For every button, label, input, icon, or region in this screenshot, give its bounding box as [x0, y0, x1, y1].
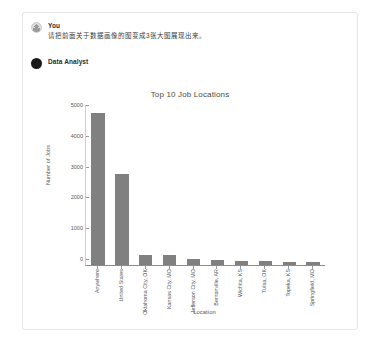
x-axis-tick-label: Jefferson City, MO	[190, 269, 196, 313]
bar-slot	[86, 105, 110, 265]
y-axis-tick-label: 3000	[71, 164, 86, 170]
x-axis-tick-label: Oklahoma City, OK	[142, 269, 148, 315]
x-axis-tick-label: United States	[118, 269, 124, 301]
x-axis-tick-label: Tulsa, OK	[261, 269, 267, 293]
message-author-name: Data Analyst	[48, 57, 357, 66]
chart-title: Top 10 Job Locations	[31, 90, 349, 99]
x-tick-slot: Jefferson City, MO	[181, 266, 205, 326]
x-axis-tick-label: Springfield, MO	[309, 269, 315, 306]
bar	[91, 113, 104, 265]
message-author-name: You	[48, 21, 357, 30]
bar-slot	[253, 105, 277, 265]
x-axis-tick-label: Anywhere	[94, 269, 100, 293]
y-axis-tick-label: 2000	[71, 194, 86, 200]
screenshot-root: You 请把前面关于数据画像的图变成3张大图展现出来。 Data Analyst…	[0, 0, 381, 348]
message-assistant: Data Analyst	[23, 57, 357, 69]
y-axis-tick-label: 4000	[71, 133, 86, 139]
x-tick-slot: United States	[109, 266, 133, 326]
bar-series	[86, 105, 325, 265]
y-axis-label: Number of Jobs	[45, 145, 51, 185]
bar	[211, 260, 224, 265]
bar	[163, 255, 176, 265]
bar-slot	[134, 105, 158, 265]
x-tick-slot: Topeka, KS	[276, 266, 300, 326]
user-avatar-icon	[31, 22, 42, 33]
bar-chart: Top 10 Job Locations Number of Jobs 0100…	[31, 85, 349, 323]
x-axis-tick-label: Bentonville, AR	[213, 269, 219, 306]
bar	[139, 255, 152, 265]
x-axis-ticks: AnywhereUnited StatesOklahoma City, OKKa…	[85, 266, 324, 326]
bar-slot	[277, 105, 301, 265]
bar-slot	[229, 105, 253, 265]
bar-slot	[110, 105, 134, 265]
y-axis-tick-label: 5000	[71, 102, 86, 108]
bar	[235, 261, 248, 265]
bar	[115, 174, 128, 265]
x-tick-slot: Anywhere	[85, 266, 109, 326]
bar	[306, 262, 319, 265]
x-tick-slot: Wichita, KS	[228, 266, 252, 326]
x-tick-slot: Springfield, MO	[300, 266, 324, 326]
bar	[283, 262, 296, 265]
conversation-card: You 请把前面关于数据画像的图变成3张大图展现出来。 Data Analyst…	[22, 12, 358, 330]
x-tick-slot: Kansas City, MO	[157, 266, 181, 326]
x-tick-slot: Tulsa, OK	[252, 266, 276, 326]
bar-slot	[206, 105, 230, 265]
bar-slot	[301, 105, 325, 265]
y-axis-tick-label: 1000	[71, 225, 86, 231]
x-tick-slot: Oklahoma City, OK	[133, 266, 157, 326]
x-axis-tick-label: Kansas City, MO	[166, 269, 172, 309]
bar	[187, 259, 200, 265]
x-axis-tick-label: Topeka, KS	[285, 269, 291, 297]
x-tick-slot: Bentonville, AR	[205, 266, 229, 326]
x-axis-label: Location	[85, 309, 324, 315]
bar-slot	[182, 105, 206, 265]
bar	[259, 261, 272, 265]
x-axis-tick-label: Wichita, KS	[237, 269, 243, 297]
plot-area: 010002000300040005000	[85, 105, 325, 266]
bar-slot	[158, 105, 182, 265]
assistant-avatar-icon	[31, 58, 42, 69]
message-text: 请把前面关于数据画像的图变成3张大图展现出来。	[48, 31, 357, 41]
message-user: You 请把前面关于数据画像的图变成3张大图展现出来。	[23, 21, 357, 41]
